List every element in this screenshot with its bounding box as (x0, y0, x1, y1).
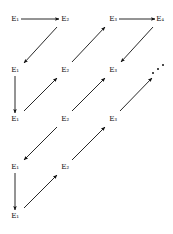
node-label-n-r4-c1: E₁ (11, 164, 19, 171)
arrow-diagonal-up-right (72, 127, 105, 160)
arrow-diagonal-down-left (121, 27, 153, 62)
node-label-n-r1-c4: E₄ (156, 16, 164, 23)
node-label-n-r4-c2: E₂ (61, 164, 69, 171)
node-label-n-r2-c3: E₃ (109, 67, 117, 74)
node-label-n-r5-c1: E₁ (11, 213, 19, 220)
arrow-diagonal-up-right (72, 78, 105, 111)
arrow-group (15, 19, 155, 210)
diagram-arrows-layer (0, 0, 173, 234)
diagonal-ellipsis-icon (152, 63, 166, 75)
node-label-n-r3-c2: E₂ (61, 116, 69, 123)
arrow-diagonal-up-right (24, 175, 57, 208)
node-label-n-r3-c3: E₃ (109, 116, 117, 123)
node-label-n-r2-c2: E₂ (61, 67, 69, 74)
diagram-canvas: E₁E₂E₃E₄E₁E₂E₃E₁E₂E₃E₁E₂E₁ (0, 0, 173, 234)
arrow-diagonal-down-left (24, 27, 57, 63)
arrow-diagonal-up-right (72, 27, 105, 62)
arrow-diagonal-down-left (24, 127, 57, 160)
node-label-n-r1-c1: E₁ (11, 16, 19, 23)
node-label-n-r2-c1: E₁ (11, 67, 19, 74)
node-label-n-r3-c1: E₁ (11, 116, 19, 123)
node-label-n-r1-c3: E₃ (109, 16, 117, 23)
arrow-diagonal-up-right (24, 78, 57, 111)
node-label-n-r1-c2: E₂ (61, 16, 69, 23)
arrow-diagonal-up-right (120, 78, 152, 111)
